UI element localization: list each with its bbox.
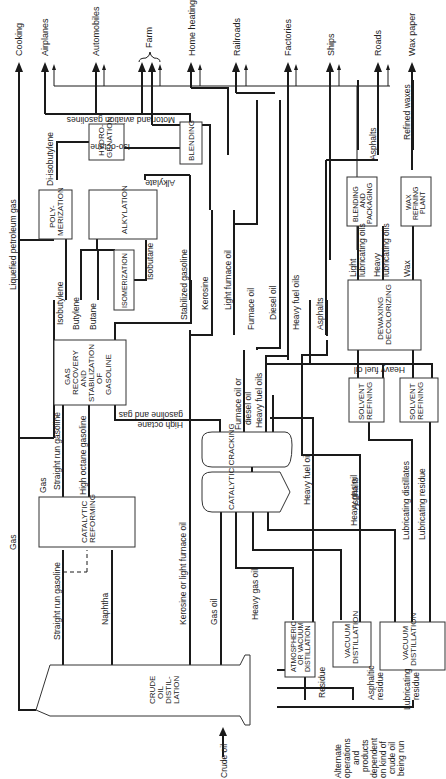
svg-text:ISOMERIZATION: ISOMERIZATION xyxy=(121,253,128,308)
svg-text:Lubricating distillates: Lubricating distillates xyxy=(401,461,411,540)
product-factories: Factories xyxy=(283,18,293,56)
svg-text:diesel oil: diesel oil xyxy=(243,392,253,425)
svg-text:Butane: Butane xyxy=(88,303,98,330)
svg-text:Light furnace oil: Light furnace oil xyxy=(223,250,233,310)
svg-text:gasoline and gas: gasoline and gas xyxy=(119,410,183,420)
crude-distillation-unit xyxy=(36,655,250,725)
svg-text:Iso-octane: Iso-octane xyxy=(90,142,130,152)
svg-text:lubricating oils: lubricating oils xyxy=(357,223,367,277)
svg-text:Kerosine or light furnace oil: Kerosine or light furnace oil xyxy=(178,522,188,625)
svg-text:Furnace oil or: Furnace oil or xyxy=(233,378,243,430)
product-cooking: Cooking xyxy=(14,23,24,56)
catalytic-cracking-unit-bottom xyxy=(202,472,290,512)
svg-text:OR VACUUM: OR VACUUM xyxy=(297,623,304,665)
svg-text:Butylene: Butylene xyxy=(71,297,81,330)
svg-text:REFINING: REFINING xyxy=(365,382,374,420)
svg-text:Asphalts: Asphalts xyxy=(368,127,378,160)
svg-text:Wax: Wax xyxy=(402,260,412,277)
svg-text:REFINING: REFINING xyxy=(416,382,425,420)
svg-text:residue: residue xyxy=(411,672,421,700)
svg-text:Heavy fuel oils: Heavy fuel oils xyxy=(291,275,301,330)
svg-text:High octane gasoline: High octane gasoline xyxy=(78,415,88,495)
svg-text:Asphalts: Asphalts xyxy=(350,477,360,510)
refinery-flow-diagram: Cooking Airplanes Automobiles Farm Home … xyxy=(0,0,446,779)
svg-text:Crude oil: Crude oil xyxy=(219,744,229,778)
svg-text:Straight run gasoline: Straight run gasoline xyxy=(52,562,62,640)
svg-text:DECOLORIZING: DECOLORIZING xyxy=(384,284,393,345)
svg-text:Heavy gas oil: Heavy gas oil xyxy=(250,569,260,620)
svg-text:Gas oil: Gas oil xyxy=(209,598,219,625)
svg-text:REFINING: REFINING xyxy=(412,187,419,220)
svg-text:Straight run gasoline: Straight run gasoline xyxy=(52,412,62,490)
svg-text:OF: OF xyxy=(95,373,104,384)
svg-text:Naphtha: Naphtha xyxy=(100,593,110,625)
svg-text:Motor and aviation gasolines: Motor and aviation gasolines xyxy=(67,115,175,125)
product-roads: Roads xyxy=(373,29,383,56)
svg-text:Kerosine: Kerosine xyxy=(200,276,210,310)
svg-text:MERIZATION: MERIZATION xyxy=(56,187,65,236)
svg-text:Refined waxes: Refined waxes xyxy=(402,84,412,140)
svg-text:REFORMING: REFORMING xyxy=(88,494,97,543)
svg-text:ALKYLATION: ALKYLATION xyxy=(120,185,129,234)
svg-text:Lubricating residue: Lubricating residue xyxy=(417,468,427,540)
catalytic-cracking-unit-top xyxy=(202,432,292,467)
svg-text:lubricating oils: lubricating oils xyxy=(381,223,391,277)
product-farm: Farm xyxy=(144,27,154,48)
svg-text:DISTILLATION: DISTILLATION xyxy=(304,625,311,672)
product-railroads: Railroads xyxy=(232,17,242,56)
product-airplanes: Airplanes xyxy=(40,18,50,56)
svg-text:Isobutylene: Isobutylene xyxy=(55,281,65,325)
product-automobiles: Automobiles xyxy=(91,6,101,56)
svg-text:Asphalts: Asphalts xyxy=(315,297,325,330)
svg-text:Stabilized gasoline: Stabilized gasoline xyxy=(179,249,189,320)
svg-text:Isobutane: Isobutane xyxy=(145,242,155,280)
svg-text:LATION: LATION xyxy=(172,675,181,704)
svg-text:BLENDING: BLENDING xyxy=(352,186,359,222)
svg-text:Liquefied petroleum gas: Liquefied petroleum gas xyxy=(8,199,18,290)
svg-text:WAX: WAX xyxy=(405,194,412,210)
svg-text:Gas: Gas xyxy=(8,534,18,550)
svg-text:High octane: High octane xyxy=(137,420,183,430)
svg-text:Heavy fuel oil: Heavy fuel oil xyxy=(354,365,405,375)
product-wax-paper: Wax paper xyxy=(407,13,417,56)
svg-text:PLANT: PLANT xyxy=(419,191,426,214)
svg-text:residue: residue xyxy=(375,672,385,700)
svg-text:Furnace oil: Furnace oil xyxy=(246,288,256,330)
svg-text:CATALYTIC CRACKING: CATALYTIC CRACKING xyxy=(227,423,236,510)
svg-text:GASOLINE: GASOLINE xyxy=(104,354,113,395)
svg-text:Di-isobutylene: Di-isobutylene xyxy=(45,132,55,186)
alternate-operations-note: Alternate operations and products depend… xyxy=(333,737,406,778)
product-labels: Cooking Airplanes Automobiles Farm Home … xyxy=(14,0,417,56)
svg-text:Heavy fuel oils: Heavy fuel oils xyxy=(254,373,264,428)
svg-text:Alkylate: Alkylate xyxy=(145,178,175,188)
svg-text:Heavy fuel oil: Heavy fuel oil xyxy=(302,454,312,505)
svg-text:BLENDING: BLENDING xyxy=(187,120,196,161)
svg-text:Diesel oil: Diesel oil xyxy=(268,285,278,320)
svg-text:being run: being run xyxy=(396,740,406,776)
svg-text:ATMOSPHERIC: ATMOSPHERIC xyxy=(290,621,297,672)
svg-text:Residue: Residue xyxy=(317,667,327,698)
svg-text:DISTILLATION: DISTILLATION xyxy=(351,611,360,664)
svg-text:AND: AND xyxy=(359,193,366,208)
product-ships: Ships xyxy=(326,33,336,56)
svg-text:Gas: Gas xyxy=(38,477,48,493)
svg-text:PACKAGING: PACKAGING xyxy=(366,183,373,224)
product-home-heating: Home heating xyxy=(187,0,197,56)
svg-text:DISTILLATION: DISTILLATION xyxy=(409,613,418,666)
